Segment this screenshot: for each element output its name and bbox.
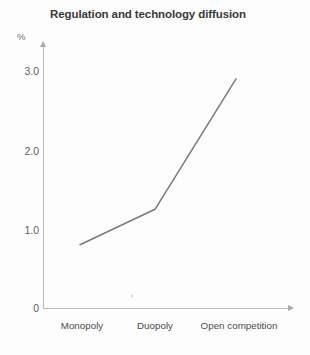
- data-series-line: [80, 79, 236, 245]
- plot-area: [0, 0, 310, 355]
- chart-figure: Regulation and technology diffusion % 3.…: [0, 0, 310, 355]
